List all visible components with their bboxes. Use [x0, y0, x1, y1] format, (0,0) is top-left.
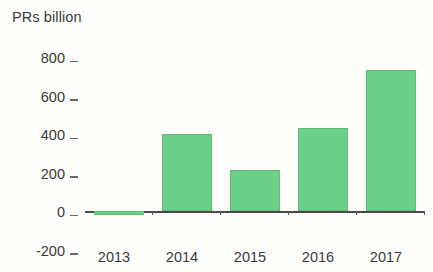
- y-axis-tick-label: 600: [41, 89, 65, 105]
- x-axis-tick-mark: [288, 211, 289, 215]
- y-axis-tick-dash-icon: [70, 61, 78, 62]
- y-axis-tick: 200: [0, 166, 78, 182]
- y-axis-tick-label: 200: [41, 166, 65, 182]
- x-axis-label-2017: 2017: [356, 249, 416, 265]
- bar-2014[interactable]: [162, 134, 212, 211]
- bar-2017[interactable]: [366, 70, 416, 211]
- y-axis-tick-dash-icon: [70, 176, 78, 177]
- y-axis-tick: 800: [0, 50, 78, 66]
- y-axis-tick: 400: [0, 127, 78, 143]
- y-axis-tick-label: 0: [57, 204, 65, 220]
- y-axis-tick-label: 800: [41, 50, 65, 66]
- y-axis-tick-dash-icon: [70, 99, 78, 100]
- y-axis-tick: -200: [0, 243, 78, 259]
- bar-2013[interactable]: [94, 211, 144, 215]
- x-axis-label-2016: 2016: [288, 249, 348, 265]
- bar-chart-figure: PRs billion 800 600 400 200 0 -200: [0, 0, 433, 272]
- y-axis-tick-label: 400: [41, 127, 65, 143]
- x-axis-tick-mark: [424, 211, 425, 215]
- y-axis-tick-dash-icon: [70, 215, 78, 216]
- y-axis-tick: 600: [0, 89, 78, 105]
- y-axis-tick-dash-icon: [70, 253, 78, 254]
- x-axis-label-2014: 2014: [152, 249, 212, 265]
- bar-2016[interactable]: [298, 128, 348, 211]
- bar-2015[interactable]: [230, 170, 280, 211]
- x-axis-tick-mark: [356, 211, 357, 215]
- y-axis-tick-label: -200: [36, 243, 65, 259]
- chart-title: PRs billion: [12, 9, 82, 25]
- x-axis-tick-mark: [220, 211, 221, 215]
- x-axis-label-2015: 2015: [220, 249, 280, 265]
- y-axis-tick-dash-icon: [70, 138, 78, 139]
- x-axis-label-2013: 2013: [84, 249, 144, 265]
- y-axis-tick: 0: [0, 204, 78, 220]
- x-axis-tick-mark: [152, 211, 153, 215]
- plot-area: 800 600 400 200 0 -200: [85, 40, 425, 255]
